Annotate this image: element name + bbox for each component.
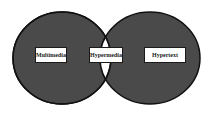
hypertext-label: Hypertext [144, 47, 186, 63]
multimedia-label: Multimedia [35, 47, 67, 63]
hypermedia-label: Hypermedia [89, 47, 123, 63]
